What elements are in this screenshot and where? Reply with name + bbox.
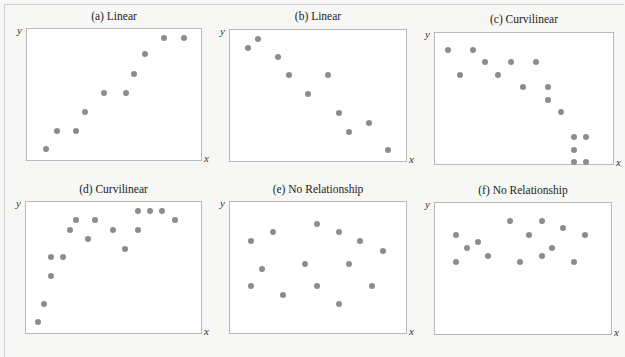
data-point [508,59,514,65]
data-point [520,84,526,90]
data-point [336,110,342,116]
data-point [336,301,342,307]
data-point [67,227,73,233]
data-point [135,208,141,214]
data-point [380,248,386,254]
panel-title: (f) No Relationship [434,184,612,196]
x-axis-label: x [616,156,621,168]
data-point [517,259,523,265]
data-point [549,245,555,251]
plot-area [229,201,407,334]
data-point [545,97,551,103]
panel-title: (c) Curvilinear [434,13,614,25]
y-axis-label: y [16,197,21,209]
data-point [54,128,60,134]
data-point [346,129,352,135]
data-point [142,51,148,57]
data-point [101,90,107,96]
x-axis-label: x [409,153,414,165]
data-point [259,266,265,272]
data-point [385,147,391,153]
panel-linear-a: (a) Linearyx [0,0,205,176]
panel-linear-b: (b) Linearyx [205,0,410,176]
data-point [571,134,577,140]
data-point [92,217,98,223]
data-point [82,109,88,115]
data-point [507,218,513,224]
x-axis-label: x [409,325,414,337]
data-point [571,259,577,265]
data-point [35,319,41,325]
y-axis-label: y [220,25,225,37]
data-point [357,238,363,244]
data-point [369,283,375,289]
data-point [41,301,47,307]
plot-area [26,28,202,161]
data-point [122,246,128,252]
data-point [470,47,476,53]
data-point [453,259,459,265]
panel-no-relationship-f: (f) No Relationshipyx [415,176,620,352]
data-point [255,36,261,42]
data-point [366,120,372,126]
data-point [85,236,91,242]
data-point [172,217,178,223]
data-point [123,90,129,96]
data-point [495,72,501,78]
data-point [286,72,292,78]
plot-area [434,32,614,165]
data-point [482,59,488,65]
data-point [270,229,276,235]
data-point [545,84,551,90]
data-point [181,35,187,41]
panel-title: (d) Curvilinear [25,183,202,195]
data-point [131,71,137,77]
x-axis-label: x [614,326,619,338]
panel-title: (b) Linear [229,10,407,22]
data-point [539,253,545,259]
panel-title: (a) Linear [26,10,202,22]
data-point [457,72,463,78]
panel-title: (e) No Relationship [229,183,407,195]
data-point [475,239,481,245]
panel-curvilinear-c: (c) Curvilinearyx [415,0,620,176]
data-point [325,72,331,78]
data-point [248,283,254,289]
data-point [571,159,577,165]
data-point [43,146,49,152]
data-point [583,159,589,165]
data-point [582,232,588,238]
data-point [571,147,577,153]
y-axis-label: y [220,197,225,209]
data-point [305,91,311,97]
y-axis-label: y [17,24,22,36]
data-point [314,221,320,227]
data-point [558,109,564,115]
y-axis-label: y [425,28,430,40]
data-point [248,238,254,244]
panel-curvilinear-d: (d) Curvilinearyx [0,176,205,352]
data-point [445,47,451,53]
data-point [245,45,251,51]
plot-area [25,201,202,334]
panel-no-relationship-e: (e) No Relationshipyx [205,176,410,352]
plot-area [434,202,612,335]
data-point [485,253,491,259]
data-point [147,208,153,214]
data-point [60,254,66,260]
data-point [314,283,320,289]
data-point [583,134,589,140]
data-point [280,292,286,298]
data-point [464,245,470,251]
data-point [73,217,79,223]
data-point [336,229,342,235]
data-point [526,232,532,238]
data-point [346,261,352,267]
data-point [560,225,566,231]
data-point [48,254,54,260]
data-point [453,232,459,238]
data-point [73,128,79,134]
data-point [533,59,539,65]
data-point [539,218,545,224]
y-axis-label: y [425,198,430,210]
